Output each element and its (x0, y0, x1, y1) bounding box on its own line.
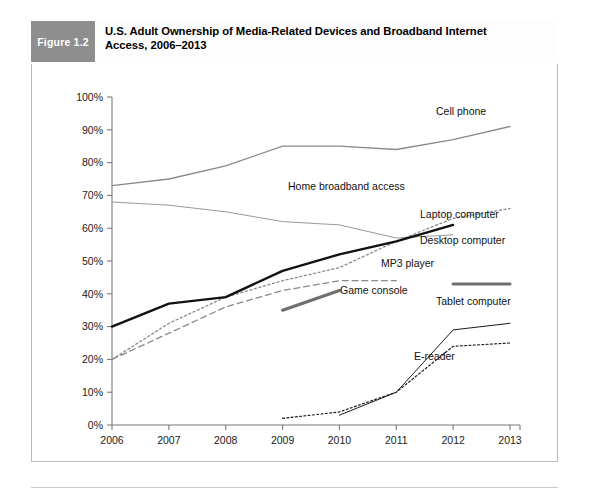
series-label-game-console: Game console (340, 284, 408, 296)
y-tick-label: 60% (82, 222, 103, 234)
x-tick-label: 2013 (498, 434, 522, 446)
series-line-home-broadband-access (112, 209, 510, 360)
series-line-game-console (283, 291, 340, 311)
figure-page: Figure 1.2 U.S. Adult Ownership of Media… (0, 0, 589, 498)
y-tick-label: 70% (82, 189, 103, 201)
y-tick-label: 90% (82, 124, 103, 136)
x-tick-label: 2010 (328, 434, 352, 446)
x-tick-label: 2012 (441, 434, 465, 446)
series-line-cell-phone (112, 127, 510, 186)
y-tick-label: 0% (88, 419, 103, 431)
series-line-e-reader (283, 343, 510, 418)
y-tick-label: 40% (82, 288, 103, 300)
series-label-desktop-computer: Desktop computer (420, 234, 506, 246)
y-tick-label: 80% (82, 156, 103, 168)
x-tick-label: 2007 (157, 434, 181, 446)
series-label-mp3-player: MP3 player (381, 257, 435, 269)
series-label-home-broadband-access: Home broadband access (288, 180, 405, 192)
y-tick-label: 50% (82, 255, 103, 267)
x-tick-label: 2011 (385, 434, 408, 446)
x-tick-label: 2009 (271, 434, 295, 446)
series-label-e-reader: E-reader (414, 350, 455, 362)
series-line-desktop-computer (112, 202, 453, 238)
y-tick-label: 20% (82, 353, 103, 365)
y-tick-label: 100% (76, 91, 103, 103)
x-tick-label: 2008 (214, 434, 238, 446)
y-tick-label: 30% (82, 320, 103, 332)
series-label-cell-phone: Cell phone (436, 105, 486, 117)
x-tick-label: 2006 (100, 434, 124, 446)
chart-svg: 0%10%20%30%40%50%60%70%80%90%100%2006200… (0, 0, 589, 498)
y-tick-label: 10% (82, 386, 103, 398)
line-chart: 0%10%20%30%40%50%60%70%80%90%100%2006200… (0, 0, 589, 498)
series-line-tablet-computer (339, 323, 510, 415)
series-label-laptop-computer: Laptop computer (420, 208, 499, 220)
series-label-tablet-computer: Tablet computer (436, 295, 511, 307)
